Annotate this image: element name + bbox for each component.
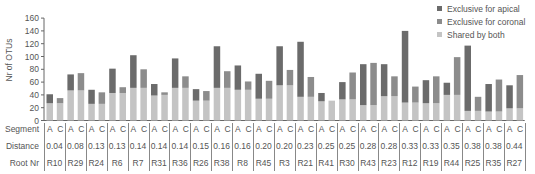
bar-shared bbox=[67, 90, 74, 120]
bar-shared bbox=[391, 96, 398, 120]
segment-label: A bbox=[465, 124, 471, 134]
segment-label: C bbox=[204, 124, 210, 134]
column-separator bbox=[525, 123, 526, 171]
bar-shared bbox=[297, 97, 304, 121]
bar-shared bbox=[454, 95, 461, 121]
bar-shared bbox=[109, 93, 116, 121]
root-nr-cell: R3 bbox=[274, 158, 295, 168]
bar-shared bbox=[266, 99, 273, 121]
bar-shared bbox=[349, 99, 356, 120]
root-nr-cell: R35 bbox=[483, 158, 504, 168]
segment-label: A bbox=[193, 124, 199, 134]
bar-shared bbox=[287, 85, 294, 120]
distance-cell: 0.13 bbox=[107, 141, 128, 151]
distance-cell: 0.25 bbox=[316, 141, 337, 151]
segment-label: A bbox=[402, 124, 408, 134]
segment-label: A bbox=[235, 124, 241, 134]
distance-cell: 0.28 bbox=[358, 141, 379, 151]
bar-exclusive-apical bbox=[172, 58, 179, 87]
bar-shared bbox=[402, 103, 409, 121]
segment-label: A bbox=[298, 124, 304, 134]
distance-cell: 0.08 bbox=[65, 141, 86, 151]
legend: Exclusive for apical Exclusive for coron… bbox=[437, 2, 525, 41]
bar-exclusive-coronal bbox=[78, 73, 85, 90]
distance-cell: 0.25 bbox=[337, 141, 358, 151]
bar-shared bbox=[276, 85, 283, 120]
segment-label: C bbox=[454, 124, 460, 134]
segment-label: A bbox=[361, 124, 367, 134]
distance-cell: 0.20 bbox=[253, 141, 274, 151]
segment-label: C bbox=[245, 124, 251, 134]
row-label-distance: Distance bbox=[0, 141, 39, 151]
bar-shared bbox=[370, 105, 377, 120]
root-nr-cell: R38 bbox=[211, 158, 232, 168]
segment-label: C bbox=[475, 124, 481, 134]
bar-shared bbox=[423, 103, 430, 120]
distance-cell: 0.14 bbox=[128, 141, 149, 151]
root-nr-cell: R29 bbox=[65, 158, 86, 168]
bar-shared bbox=[57, 103, 64, 120]
bar-exclusive-coronal bbox=[496, 80, 503, 112]
root-nr-cell: R30 bbox=[337, 158, 358, 168]
y-tick-label: 40 bbox=[30, 90, 40, 100]
distance-cell: 0.04 bbox=[44, 141, 65, 151]
legend-label-shared: Shared by both bbox=[447, 30, 505, 40]
bar-exclusive-apical bbox=[381, 64, 388, 96]
bar-shared bbox=[329, 101, 336, 121]
segment-label: A bbox=[172, 124, 178, 134]
segment-label: A bbox=[444, 124, 450, 134]
distance-cell: 0.14 bbox=[169, 141, 190, 151]
bar-shared bbox=[412, 103, 419, 121]
bar-exclusive-coronal bbox=[57, 98, 64, 103]
segment-label: C bbox=[287, 124, 293, 134]
bar-shared bbox=[140, 88, 147, 121]
bar-shared bbox=[214, 88, 221, 121]
bar-exclusive-apical bbox=[151, 84, 158, 96]
legend-item-coronal: Exclusive for coronal bbox=[437, 15, 525, 28]
distance-cell: 0.44 bbox=[504, 141, 525, 151]
segment-label: C bbox=[413, 124, 419, 134]
bar-exclusive-coronal bbox=[140, 69, 147, 88]
root-nr-cell: R36 bbox=[169, 158, 190, 168]
bar-shared bbox=[256, 99, 263, 121]
bar-shared bbox=[485, 112, 492, 121]
bar-exclusive-coronal bbox=[224, 71, 231, 88]
distance-cell: 0.20 bbox=[274, 141, 295, 151]
legend-item-shared: Shared by both bbox=[437, 28, 525, 41]
bar-exclusive-apical bbox=[318, 93, 325, 101]
root-nr-cell: R41 bbox=[316, 158, 337, 168]
bar-shared bbox=[433, 103, 440, 120]
bar-exclusive-coronal bbox=[99, 92, 106, 104]
distance-cell: 0.35 bbox=[441, 141, 462, 151]
bar-shared bbox=[78, 90, 85, 120]
root-nr-cell: R7 bbox=[128, 158, 149, 168]
root-nr-cell: R12 bbox=[399, 158, 420, 168]
bar-exclusive-coronal bbox=[308, 77, 315, 97]
y-tick-label: 100 bbox=[25, 52, 39, 62]
bar-shared bbox=[496, 112, 503, 121]
segment-label: A bbox=[47, 124, 53, 134]
bar-exclusive-apical bbox=[235, 65, 242, 89]
segment-label: A bbox=[319, 124, 325, 134]
bar-exclusive-apical bbox=[485, 84, 492, 112]
segment-label: A bbox=[486, 124, 492, 134]
legend-label-apical: Exclusive for apical bbox=[447, 4, 520, 14]
segment-label: A bbox=[110, 124, 116, 134]
root-nr-cell: R43 bbox=[358, 158, 379, 168]
bar-shared bbox=[120, 93, 127, 121]
bar-shared bbox=[151, 96, 158, 121]
segment-label: A bbox=[152, 124, 158, 134]
row-label-root-nr: Root Nr bbox=[0, 158, 39, 168]
bar-exclusive-coronal bbox=[433, 76, 440, 103]
segment-label: A bbox=[277, 124, 283, 134]
distance-cell: 0.16 bbox=[232, 141, 253, 151]
segment-label: C bbox=[162, 124, 168, 134]
bar-exclusive-coronal bbox=[161, 92, 168, 95]
root-nr-cell: R44 bbox=[441, 158, 462, 168]
root-nr-cell: R24 bbox=[86, 158, 107, 168]
bar-exclusive-apical bbox=[444, 83, 451, 95]
bar-exclusive-apical bbox=[256, 74, 263, 99]
bar-shared bbox=[235, 90, 242, 121]
segment-label: C bbox=[99, 124, 105, 134]
bar-exclusive-apical bbox=[109, 69, 116, 93]
